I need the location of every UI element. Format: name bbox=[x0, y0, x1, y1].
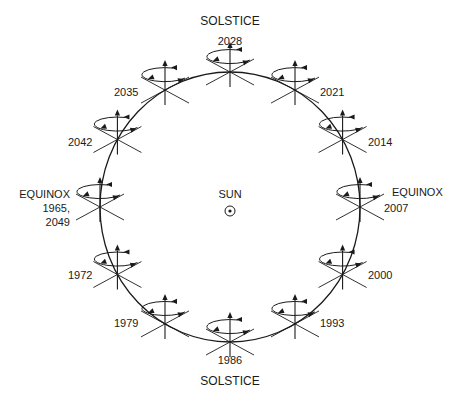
year-label-2035: 2035 bbox=[114, 86, 138, 99]
sun-label: SUN bbox=[200, 188, 260, 201]
precession-glyph-icon bbox=[76, 177, 124, 222]
solstice-bottom-label: SOLSTICE bbox=[190, 375, 270, 388]
year-label-1979: 1979 bbox=[114, 317, 138, 330]
orbit-path bbox=[100, 72, 360, 342]
equinox-left-label: EQUINOX bbox=[0, 188, 70, 201]
equinox-right-label: EQUINOX bbox=[392, 186, 443, 199]
year-label-1965: 1965, bbox=[0, 202, 70, 215]
year-label-2014: 2014 bbox=[368, 136, 392, 149]
year-label-2007: 2007 bbox=[384, 202, 408, 215]
precession-glyph-icon bbox=[141, 60, 189, 105]
year-label-2000: 2000 bbox=[368, 269, 392, 282]
precession-glyph-icon bbox=[93, 245, 141, 290]
sun-symbol-icon bbox=[225, 206, 235, 216]
precession-glyph-icon bbox=[206, 42, 254, 87]
precession-glyph-icon bbox=[336, 177, 384, 222]
year-label-2042: 2042 bbox=[68, 136, 92, 149]
solstice-top-label: SOLSTICE bbox=[190, 15, 270, 28]
precession-glyph-icon bbox=[271, 60, 319, 105]
precession-glyph-icon bbox=[319, 245, 367, 290]
year-label-2049: 2049 bbox=[0, 216, 70, 229]
year-label-2028: 2028 bbox=[200, 35, 260, 48]
year-label-2021: 2021 bbox=[320, 86, 344, 99]
year-label-1993: 1993 bbox=[320, 317, 344, 330]
year-label-1986: 1986 bbox=[200, 354, 260, 367]
year-label-1972: 1972 bbox=[68, 269, 92, 282]
orbit-diagram bbox=[0, 0, 456, 402]
precession-glyph-icon bbox=[206, 312, 254, 357]
